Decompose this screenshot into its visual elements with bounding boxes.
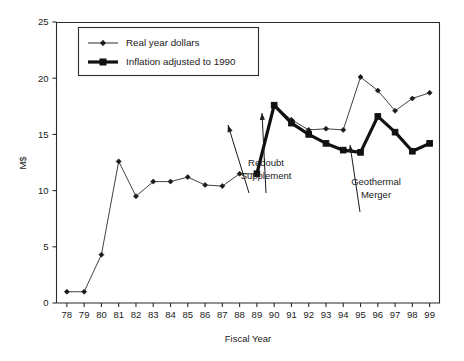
annotation-arrowhead-0-1 [260,113,265,120]
x-tick-label-95: 95 [355,309,366,320]
chart-legend: Real year dollars Inflation adjusted to … [79,28,259,76]
datapoint-real-80 [99,252,104,257]
x-tick-label-85: 85 [182,309,193,320]
y-tick-label-5: 5 [43,241,48,252]
datapoint-adjusted-95 [358,150,364,156]
x-tick-label-96: 96 [373,309,384,320]
x-tick-label-86: 86 [200,309,211,320]
x-tick-label-87: 87 [217,309,228,320]
x-tick-label-79: 79 [79,309,90,320]
x-tick-label-88: 88 [234,309,245,320]
y-tick-label-0: 0 [43,297,48,308]
x-tick-label-91: 91 [286,309,297,320]
x-tick-label-82: 82 [131,309,142,320]
annotation-label-line1-1: Geothermal [351,176,401,187]
datapoint-real-86 [203,182,208,187]
x-axis-ticks: 7879808182838485868788899091929394959697… [62,303,435,320]
x-axis-title: Fiscal Year [225,333,271,344]
datapoint-real-85 [185,175,190,180]
x-tick-label-92: 92 [303,309,314,320]
chart-annotations: RedoubtSupplementGeothermalMerger [228,113,401,212]
annotation-label-line2-1: Merger [361,189,391,200]
annotation-label-line1-0: Redoubt [248,157,284,168]
datapoint-real-81 [116,159,121,164]
legend-label-real-year-dollars: Real year dollars [126,37,200,48]
x-tick-label-81: 81 [113,309,124,320]
x-tick-label-99: 99 [424,309,435,320]
x-tick-label-78: 78 [62,309,73,320]
y-tick-label-25: 25 [38,16,49,27]
x-tick-label-93: 93 [321,309,332,320]
datapoint-adjusted-91 [289,120,295,126]
datapoint-real-93 [323,126,328,131]
y-axis-title: M$ [17,156,28,170]
legend-box [79,28,259,76]
annotation-arrowhead-1-0 [348,145,353,152]
datapoint-real-79 [82,289,87,294]
x-tick-label-98: 98 [407,309,418,320]
x-tick-label-94: 94 [338,309,349,320]
x-tick-label-80: 80 [96,309,107,320]
datapoint-adjusted-98 [410,148,416,154]
y-tick-label-20: 20 [38,73,49,84]
datapoint-adjusted-99 [427,141,433,147]
annotation-arrowhead-0-0 [228,125,233,132]
line-chart: 0510152025 78798081828384858687888990919… [0,0,464,361]
datapoint-real-99 [427,90,432,95]
datapoint-real-78 [64,289,69,294]
x-tick-label-84: 84 [165,309,176,320]
datapoint-adjusted-96 [375,114,381,120]
x-tick-label-97: 97 [390,309,401,320]
legend-label-inflation-adjusted: Inflation adjusted to 1990 [126,56,236,67]
datapoint-adjusted-92 [306,132,312,138]
datapoint-adjusted-90 [271,102,277,108]
x-tick-label-89: 89 [252,309,263,320]
annotation-leader-0-0 [228,125,249,193]
datapoint-real-84 [168,179,173,184]
y-tick-label-10: 10 [38,185,49,196]
chart-container: 0510152025 78798081828384858687888990919… [0,0,464,361]
x-tick-label-90: 90 [269,309,280,320]
y-axis-ticks: 0510152025 [38,16,57,308]
y-tick-label-15: 15 [38,129,49,140]
annotation-label-line2-0: Supplement [241,170,292,181]
datapoint-adjusted-97 [392,129,398,135]
x-tick-label-83: 83 [148,309,159,320]
datapoint-real-94 [341,127,346,132]
legend-swatch-square-icon [100,59,106,65]
datapoint-adjusted-93 [323,141,329,147]
datapoint-adjusted-94 [340,147,346,153]
